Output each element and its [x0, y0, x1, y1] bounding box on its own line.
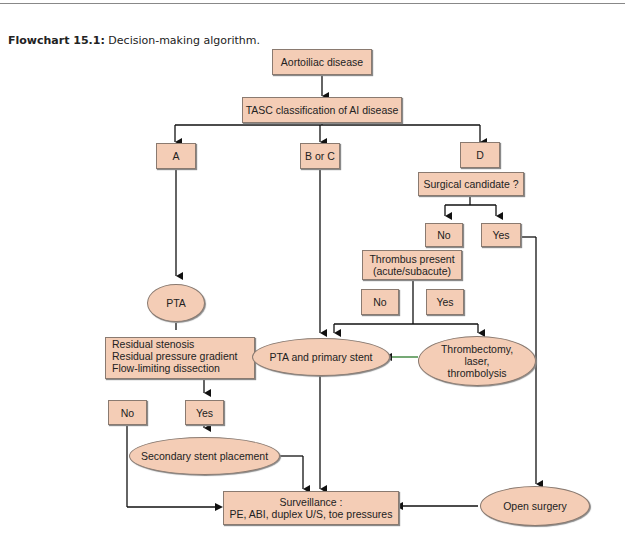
thrombectomy-line-3: thrombolysis: [448, 367, 507, 379]
node-surgical-candidate: Surgical candidate ?: [418, 172, 524, 196]
residual-line-1: Residual stenosis: [112, 338, 194, 350]
node-surveillance: Surveillance : PE, ABI, duplex U/S, toe …: [223, 491, 399, 525]
node-secondary-stent: Secondary stent placement: [129, 437, 280, 475]
residual-line-3: Flow-limiting dissection: [112, 362, 220, 374]
surveillance-line-2: PE, ABI, duplex U/S, toe pressures: [230, 508, 393, 520]
node-surgical-yes: Yes: [481, 223, 521, 247]
thrombus-line-2: (acute/subacute): [373, 265, 451, 277]
node-class-d: D: [460, 142, 500, 168]
node-thrombus-no: No: [361, 289, 399, 315]
node-pta: PTA: [147, 284, 205, 322]
node-class-b-or-c: B or C: [300, 143, 340, 169]
node-aortoiliac-disease: Aortoiliac disease: [272, 49, 372, 75]
thrombus-line-1: Thrombus present: [369, 253, 454, 265]
node-thrombectomy: Thrombectomy, laser, thrombolysis: [418, 336, 536, 386]
node-residual-no: No: [108, 400, 147, 425]
node-surgical-no: No: [425, 223, 463, 247]
node-tasc-classification: TASC classification of AI disease: [242, 97, 402, 123]
node-thrombus-yes: Yes: [426, 289, 464, 315]
node-class-a: A: [156, 143, 196, 169]
surveillance-line-1: Surveillance :: [279, 496, 342, 508]
thrombectomy-line-1: Thrombectomy,: [441, 343, 513, 355]
node-open-surgery: Open surgery: [480, 486, 590, 526]
node-residual-findings: Residual stenosis Residual pressure grad…: [105, 337, 255, 379]
thrombectomy-line-2: laser,: [464, 355, 489, 367]
node-pta-primary-stent: PTA and primary stent: [252, 338, 390, 376]
node-residual-yes: Yes: [185, 400, 224, 425]
connectors: [0, 0, 625, 542]
residual-line-2: Residual pressure gradient: [112, 350, 238, 362]
node-thrombus-present: Thrombus present (acute/subacute): [362, 250, 462, 280]
